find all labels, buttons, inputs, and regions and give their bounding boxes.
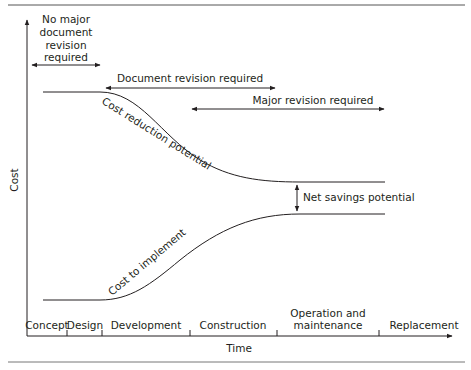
net-savings-label: Net savings potential (303, 191, 415, 203)
no-major-revision-label: No major document revision required (40, 13, 93, 63)
svg-text:required: required (44, 51, 88, 63)
phase-design: Design (67, 319, 103, 331)
cost-timing-diagram: No major document revision required Docu… (0, 0, 471, 370)
document-revision-label: Document revision required (117, 72, 263, 84)
phase-operation-1: Operation and (290, 307, 365, 319)
svg-text:document: document (40, 26, 93, 38)
phase-operation-2: maintenance (294, 319, 363, 331)
phase-replacement: Replacement (390, 319, 459, 331)
y-axis-label: Cost (8, 168, 20, 191)
major-revision-label: Major revision required (253, 94, 374, 106)
cost-to-implement-curve (43, 214, 385, 300)
cost-to-implement-label: Cost to implement (106, 226, 188, 298)
svg-text:No major: No major (42, 13, 91, 25)
cost-reduction-label: Cost reduction potential (100, 95, 214, 172)
svg-text:revision: revision (45, 39, 86, 51)
phase-concept: Concept (25, 319, 68, 331)
x-axis-label: Time (225, 342, 252, 354)
phase-development: Development (111, 319, 182, 331)
phase-construction: Construction (200, 319, 267, 331)
